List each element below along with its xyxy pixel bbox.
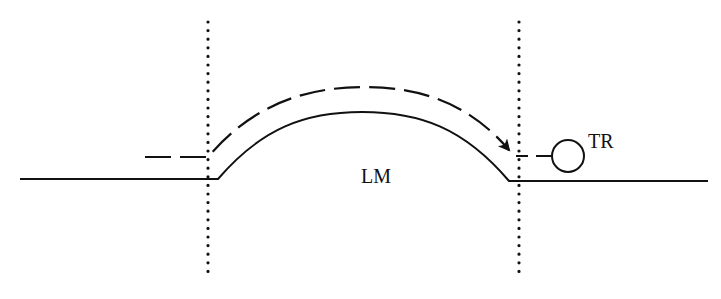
label-lm: LM	[361, 165, 391, 187]
endpoint-circle	[552, 140, 584, 172]
label-tr: TR	[588, 130, 614, 152]
diagram-canvas: LM TR	[0, 0, 721, 299]
dashed-path	[145, 87, 509, 157]
